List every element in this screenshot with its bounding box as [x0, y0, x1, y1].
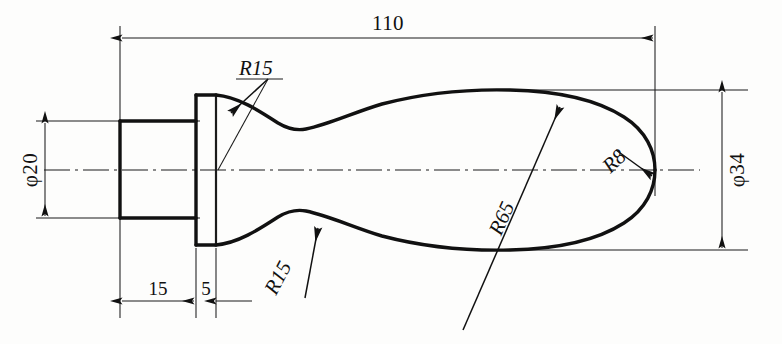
dimension-label-shank-diameter: φ20 [18, 153, 42, 187]
dimension-chain-bottom: 15 5 [122, 278, 252, 301]
drawing-svg: 110 φ20 φ34 15 5 R15 [0, 0, 782, 344]
upper-profile-curve [216, 90, 655, 170]
radius-label-upper-neck: R15 [238, 56, 273, 80]
leader-line-lower-r15 [305, 228, 318, 298]
dimension-overall-length: 110 [122, 11, 653, 38]
dimension-label-body-diameter: φ34 [725, 153, 749, 187]
leader-tail-upper-r15 [218, 79, 268, 170]
dimension-label-flange-width: 5 [201, 278, 211, 299]
radius-label-lower-neck: R15 [259, 257, 297, 299]
radius-label-nose-tip: R8 [597, 144, 632, 179]
radius-callout-lower-neck: R15 [259, 228, 318, 299]
dimension-shank-diameter: φ20 [18, 123, 45, 216]
extension-lines [36, 26, 748, 318]
radius-callout-upper-neck: R15 [218, 56, 283, 170]
dimension-label-shank-length: 15 [149, 278, 168, 299]
radius-callout-body-flank: R65 [463, 107, 560, 330]
dimension-label-overall-length: 110 [372, 11, 404, 35]
technical-drawing-canvas: 110 φ20 φ34 15 5 R15 [0, 0, 782, 344]
radius-label-body-flank: R65 [483, 198, 519, 240]
leader-line-upper-r15 [231, 79, 268, 113]
dimension-body-diameter: φ34 [722, 92, 749, 248]
lower-profile-curve [216, 170, 655, 250]
radius-callout-nose-tip: R8 [597, 144, 652, 179]
